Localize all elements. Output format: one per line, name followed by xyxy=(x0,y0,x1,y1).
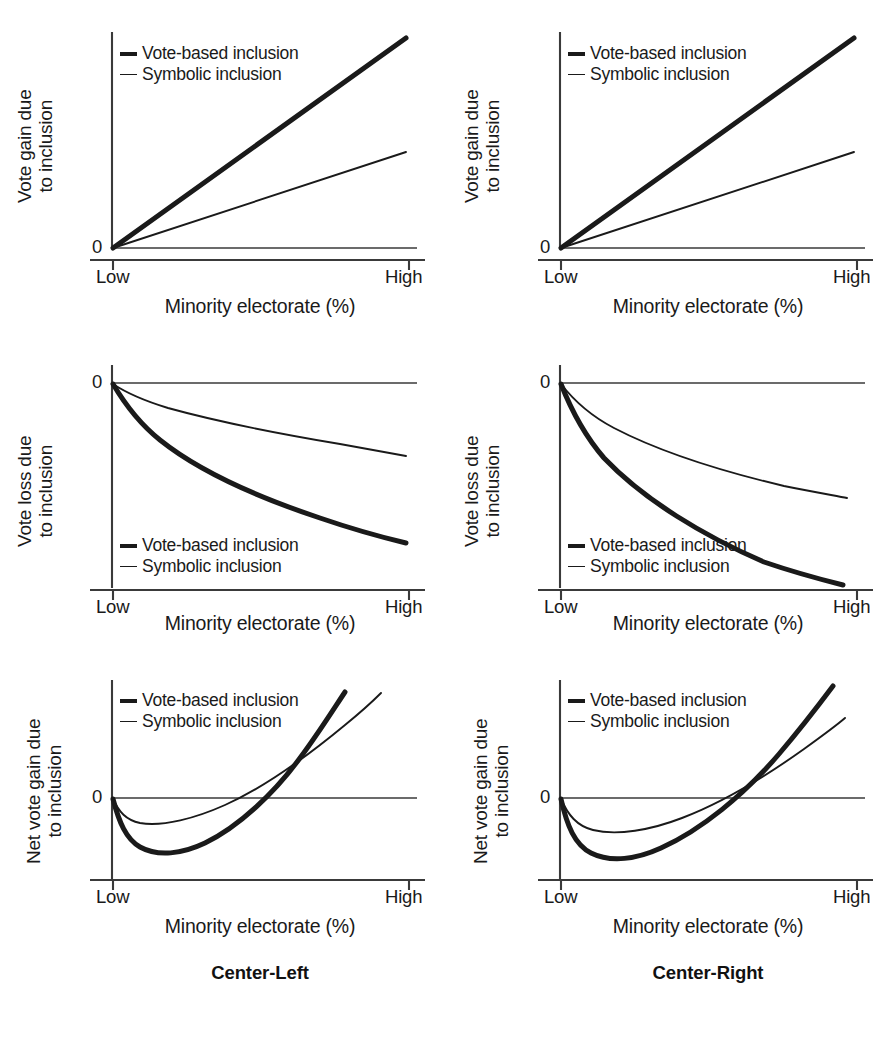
legend-swatch-thin-icon xyxy=(120,566,137,568)
column-caption-center-left: Center-Left xyxy=(105,962,415,984)
panel-center-left-gain: Vote gain due to inclusion 0 Vote-based … xyxy=(0,0,439,330)
legend-label-symbolic: Symbolic inclusion xyxy=(142,711,281,732)
legend-swatch-thick-icon xyxy=(568,544,585,548)
y-tick-zero-label: 0 xyxy=(92,236,102,258)
legend-swatch-thick-icon xyxy=(568,699,585,703)
legend-item-symbolic: Symbolic inclusion xyxy=(568,711,747,732)
y-tick-zero-label: 0 xyxy=(540,236,550,258)
panel-center-right-gain: Vote gain due to inclusion 0 Vote-based … xyxy=(439,0,878,330)
x-axis-label: Minority electorate (%) xyxy=(105,295,415,318)
series-symbolic-line xyxy=(561,152,854,248)
series-symbolic-curve xyxy=(561,718,845,832)
x-tick-label-high: High xyxy=(833,266,870,288)
legend-label-vote-based: Vote-based inclusion xyxy=(590,690,747,711)
y-axis-label-gain-left: Vote gain due to inclusion xyxy=(14,51,57,241)
column-caption-center-right: Center-Right xyxy=(553,962,863,984)
legend-label-symbolic: Symbolic inclusion xyxy=(142,556,281,577)
legend-swatch-thin-icon xyxy=(568,721,585,723)
legend-center-right-loss: Vote-based inclusion Symbolic inclusion xyxy=(568,535,747,577)
legend-item-vote-based: Vote-based inclusion xyxy=(568,43,747,64)
x-axis-label: Minority electorate (%) xyxy=(105,915,415,938)
legend-label-vote-based: Vote-based inclusion xyxy=(590,535,747,556)
legend-swatch-thick-icon xyxy=(120,544,137,548)
x-axis-label: Minority electorate (%) xyxy=(553,915,863,938)
legend-item-symbolic: Symbolic inclusion xyxy=(568,556,747,577)
legend-swatch-thin-icon xyxy=(120,721,137,723)
y-axis-label-net-left: Net vote gain due to inclusion xyxy=(23,681,66,901)
series-vote-based-curve xyxy=(113,384,406,543)
legend-label-symbolic: Symbolic inclusion xyxy=(590,556,729,577)
legend-label-vote-based: Vote-based inclusion xyxy=(590,43,747,64)
x-tick-label-high: High xyxy=(833,886,870,908)
series-symbolic-line xyxy=(113,152,406,248)
legend-swatch-thick-icon xyxy=(120,52,137,56)
legend-center-left-net: Vote-based inclusion Symbolic inclusion xyxy=(120,690,299,732)
legend-label-symbolic: Symbolic inclusion xyxy=(590,711,729,732)
legend-item-symbolic: Symbolic inclusion xyxy=(120,64,299,85)
legend-swatch-thin-icon xyxy=(568,74,585,76)
y-tick-zero-label: 0 xyxy=(540,371,550,393)
legend-item-vote-based: Vote-based inclusion xyxy=(568,690,747,711)
legend-center-left-loss: Vote-based inclusion Symbolic inclusion xyxy=(120,535,299,577)
legend-item-symbolic: Symbolic inclusion xyxy=(568,64,747,85)
panel-center-left-net: Net vote gain due to inclusion 0 Vote-ba… xyxy=(0,640,439,980)
x-tick-label-high: High xyxy=(385,266,422,288)
x-tick-label-low: Low xyxy=(544,886,577,908)
legend-label-vote-based: Vote-based inclusion xyxy=(142,690,299,711)
y-axis-label-gain-right: Vote gain due to inclusion xyxy=(461,51,504,241)
legend-swatch-thin-icon xyxy=(120,74,137,76)
panel-center-right-net: Net vote gain due to inclusion 0 Vote-ba… xyxy=(439,640,878,980)
series-symbolic-curve xyxy=(113,384,406,456)
x-tick-label-low: Low xyxy=(96,886,129,908)
y-tick-zero-label: 0 xyxy=(540,786,550,808)
legend-swatch-thick-icon xyxy=(120,699,137,703)
legend-label-symbolic: Symbolic inclusion xyxy=(142,64,281,85)
panel-center-left-loss: Vote loss due to inclusion 0 Vote-based … xyxy=(0,340,439,670)
legend-swatch-thick-icon xyxy=(568,52,585,56)
x-tick-label-low: Low xyxy=(96,266,129,288)
legend-center-left-gain: Vote-based inclusion Symbolic inclusion xyxy=(120,43,299,85)
series-symbolic-curve xyxy=(561,384,847,498)
y-axis-label-net-right: Net vote gain due to inclusion xyxy=(470,681,513,901)
x-axis-label: Minority electorate (%) xyxy=(105,612,415,635)
legend-label-vote-based: Vote-based inclusion xyxy=(142,535,299,556)
legend-item-vote-based: Vote-based inclusion xyxy=(568,535,747,556)
y-axis-label-loss-left: Vote loss due to inclusion xyxy=(14,396,57,586)
figure-panel-grid: Vote gain due to inclusion 0 Vote-based … xyxy=(0,0,878,1047)
legend-item-vote-based: Vote-based inclusion xyxy=(120,535,299,556)
legend-item-symbolic: Symbolic inclusion xyxy=(120,711,299,732)
legend-label-vote-based: Vote-based inclusion xyxy=(142,43,299,64)
legend-item-vote-based: Vote-based inclusion xyxy=(120,690,299,711)
x-tick-label-high: High xyxy=(385,886,422,908)
panel-center-right-loss: Vote loss due to inclusion 0 Vote-based … xyxy=(439,340,878,670)
legend-center-right-net: Vote-based inclusion Symbolic inclusion xyxy=(568,690,747,732)
legend-item-symbolic: Symbolic inclusion xyxy=(120,556,299,577)
legend-center-right-gain: Vote-based inclusion Symbolic inclusion xyxy=(568,43,747,85)
y-tick-zero-label: 0 xyxy=(92,786,102,808)
legend-item-vote-based: Vote-based inclusion xyxy=(120,43,299,64)
legend-label-symbolic: Symbolic inclusion xyxy=(590,64,729,85)
x-axis-label: Minority electorate (%) xyxy=(553,295,863,318)
legend-swatch-thin-icon xyxy=(568,566,585,568)
y-axis-label-loss-right: Vote loss due to inclusion xyxy=(461,396,504,586)
x-axis-label: Minority electorate (%) xyxy=(553,612,863,635)
y-tick-zero-label: 0 xyxy=(92,371,102,393)
x-tick-label-low: Low xyxy=(544,266,577,288)
